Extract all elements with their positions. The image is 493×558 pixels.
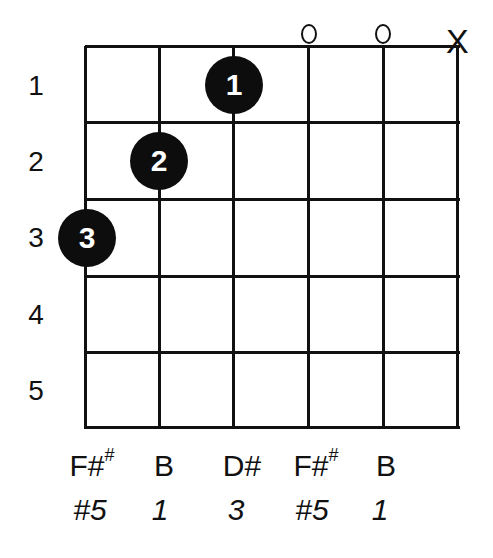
interval-label: 1 <box>350 493 410 527</box>
open-string-icon <box>301 24 317 44</box>
open-string-icon <box>375 24 391 44</box>
finger-dot-3: 3 <box>58 209 116 267</box>
fret-line-1 <box>85 121 460 124</box>
string-3 <box>307 46 310 429</box>
finger-label: 3 <box>79 221 96 255</box>
note-label: F## <box>62 449 122 483</box>
fret-number-5: 5 <box>26 375 46 407</box>
note-label: F## <box>286 449 346 483</box>
fret-line-4 <box>85 351 460 354</box>
fret-line-3 <box>85 275 460 278</box>
finger-dot-1: 1 <box>205 56 263 114</box>
fret-line-5 <box>85 426 460 429</box>
interval-label: #5 <box>60 493 120 527</box>
fret-number-3: 3 <box>26 222 46 254</box>
nut-line <box>85 45 460 48</box>
finger-label: 2 <box>151 144 168 178</box>
note-label: B <box>356 449 416 483</box>
string-5 <box>158 46 161 429</box>
string-1 <box>456 46 459 429</box>
interval-label: 3 <box>206 493 266 527</box>
muted-string-icon: X <box>446 24 469 58</box>
note-label: D# <box>212 449 272 483</box>
interval-label: #5 <box>282 493 342 527</box>
finger-dot-2: 2 <box>130 132 188 190</box>
fret-number-4: 4 <box>26 299 46 331</box>
fret-line-2 <box>85 198 460 201</box>
fret-number-1: 1 <box>26 70 46 102</box>
fret-number-2: 2 <box>26 146 46 178</box>
finger-label: 1 <box>226 68 243 102</box>
note-label: B <box>134 449 194 483</box>
string-2 <box>382 46 385 429</box>
interval-label: 1 <box>130 493 190 527</box>
